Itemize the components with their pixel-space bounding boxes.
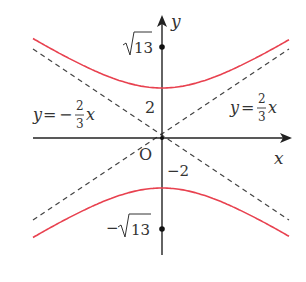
focus-upper-label: 13 [123,32,153,57]
svg-text:13: 13 [134,39,153,57]
svg-text:−: − [106,219,119,237]
svg-text:=: = [241,98,254,117]
origin-point [160,136,164,140]
svg-text:13: 13 [131,221,150,239]
x-axis-label: x [274,148,284,168]
vertex-lower-label: −2 [167,162,189,180]
hyperbola-diagram: y x O 2 −2 13 − 13 y = − 2 3 x y = 2 3 x [0,0,306,282]
asymptote-negative-label: y = − 2 3 x [32,99,95,131]
svg-text:y: y [229,98,240,117]
asymptote-positive-label: y = 2 3 x [229,92,277,124]
focus-lower-label: − 13 [106,214,151,239]
svg-text:=: = [43,105,56,124]
svg-text:x: x [268,98,277,117]
origin-label: O [139,145,152,164]
svg-text:y: y [32,105,43,124]
svg-text:3: 3 [258,110,266,124]
svg-text:−: − [59,105,72,124]
vertex-upper-label: 2 [145,98,155,117]
focus-lower-point [159,226,165,232]
focus-upper-point [159,44,165,50]
svg-text:2: 2 [76,99,84,113]
svg-text:2: 2 [258,92,266,106]
svg-text:3: 3 [76,117,84,131]
svg-text:x: x [86,105,95,124]
y-axis-label: y [170,11,181,31]
